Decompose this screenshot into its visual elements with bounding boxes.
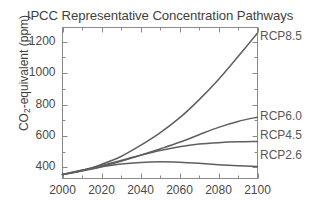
y-tick-label: 1000: [16, 65, 56, 79]
plot-frame: [63, 28, 258, 179]
x-tick-label: 2100: [236, 183, 280, 197]
series-label-rcp2-6: RCP2.6: [260, 148, 302, 162]
series-label-rcp8-5: RCP8.5: [260, 29, 302, 43]
x-tick-label: 2020: [80, 183, 124, 197]
y-tick-label: 1200: [16, 34, 56, 48]
series-label-rcp4-5: RCP4.5: [260, 128, 302, 142]
x-tick-label: 2080: [197, 183, 241, 197]
x-tick-label: 2060: [158, 183, 202, 197]
x-tick-label: 2040: [119, 183, 163, 197]
y-tick-label: 600: [16, 128, 56, 142]
x-tick-label: 2000: [41, 183, 85, 197]
y-tick-label: 800: [16, 97, 56, 111]
series-label-rcp6-0: RCP6.0: [260, 109, 302, 123]
chart-figure: IPCC Representative Concentration Pathwa…: [0, 0, 320, 212]
y-tick-label: 400: [16, 159, 56, 173]
